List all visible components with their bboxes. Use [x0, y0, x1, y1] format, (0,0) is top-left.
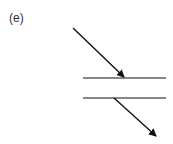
ray-diagram	[0, 0, 173, 144]
refracted-ray-arrow	[114, 98, 156, 136]
incident-ray-arrow	[73, 28, 124, 77]
